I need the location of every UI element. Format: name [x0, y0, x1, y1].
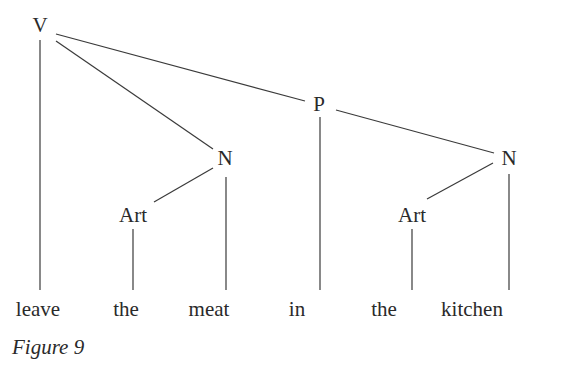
tree-edges: [40, 34, 509, 290]
leaf-word-in: in: [289, 297, 306, 321]
leaf-word-kitchen: kitchen: [441, 297, 503, 321]
node-n1: N: [217, 146, 232, 170]
leaf-word-leave: leave: [16, 297, 60, 321]
edge-v-to-n1: [56, 41, 213, 149]
edge-p-to-n2: [336, 110, 494, 153]
node-v: V: [32, 13, 47, 37]
tree-leaf-words: leavethemeatinthekitchen: [16, 297, 504, 321]
leaf-word-the: the: [371, 297, 397, 321]
edge-v-to-p: [56, 34, 305, 101]
figure-caption: Figure 9: [12, 335, 84, 360]
leaf-word-meat: meat: [189, 297, 230, 321]
node-art1: Art: [119, 203, 147, 227]
edge-n2-to-art2: [427, 163, 493, 199]
node-p: P: [313, 92, 325, 116]
edge-n1-to-art1: [154, 168, 213, 202]
syntax-tree-diagram: VNPNArtArt leavethemeatinthekitchen: [0, 0, 563, 370]
node-art2: Art: [398, 203, 426, 227]
leaf-word-the: the: [113, 297, 139, 321]
tree-nodes: VNPNArtArt: [32, 13, 516, 227]
node-n2: N: [501, 146, 516, 170]
